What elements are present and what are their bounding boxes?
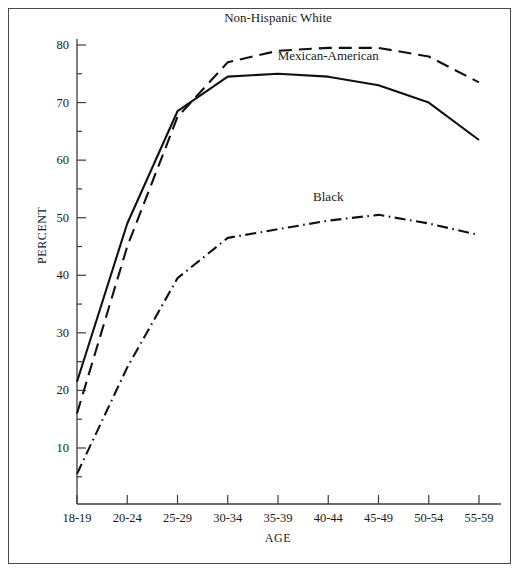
- y-axis-tick-label: 50: [29, 210, 69, 225]
- y-axis-tick-label: 80: [29, 38, 69, 53]
- y-axis-tick-label: 60: [29, 153, 69, 168]
- series-line-black: [77, 215, 479, 474]
- x-axis-tick-label: 50-54: [414, 511, 443, 526]
- series-label-black: Black: [313, 189, 343, 205]
- series-label-mexican-american: Mexican-American: [278, 48, 379, 64]
- chart-plot-area: [9, 9, 512, 565]
- x-axis-tick-label: 35-39: [263, 511, 292, 526]
- x-axis-tick-label: 18-19: [62, 511, 91, 526]
- x-axis-tick-label: 45-49: [364, 511, 393, 526]
- y-axis-tick-label: 10: [29, 441, 69, 456]
- y-axis-tick-label: 30: [29, 325, 69, 340]
- series-label-non-hispanic-white: Non-Hispanic White: [224, 10, 332, 26]
- x-axis-tick-label: 20-24: [113, 511, 142, 526]
- figure-frame: PERCENT AGE 102030405060708018-1920-2425…: [8, 8, 511, 564]
- x-axis-title: AGE: [265, 531, 291, 546]
- y-axis-tick-label: 40: [29, 268, 69, 283]
- x-axis-tick-label: 30-34: [213, 511, 242, 526]
- series-line-mexican-american: [77, 74, 479, 382]
- x-axis-tick-label: 40-44: [314, 511, 343, 526]
- x-axis-tick-label: 25-29: [163, 511, 192, 526]
- series-line-non-hispanic-white: [77, 48, 479, 414]
- y-axis-tick-label: 20: [29, 383, 69, 398]
- y-axis-tick-label: 70: [29, 95, 69, 110]
- x-axis-tick-label: 55-59: [464, 511, 493, 526]
